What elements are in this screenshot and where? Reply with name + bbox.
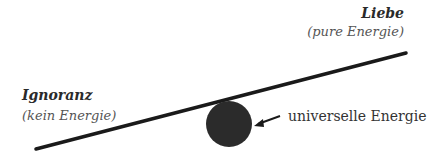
arrow-head-icon [254,119,264,127]
label-liebe: Liebe [361,5,404,21]
label-kein-energie: (kein Energie) [22,108,116,123]
label-pure-energie: (pure Energie) [307,24,404,39]
label-ignoranz: Ignoranz [22,87,92,103]
label-universelle-energie: universelle Energie [288,108,427,124]
fulcrum-ball [206,101,252,147]
